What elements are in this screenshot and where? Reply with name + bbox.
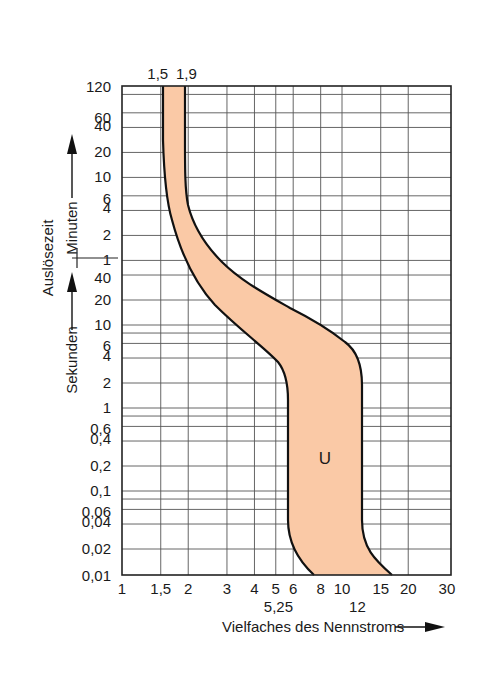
x-tick-label: 3 xyxy=(223,580,231,597)
y-tick-label-seconds: 1 xyxy=(103,399,111,416)
x-tick-label: 4 xyxy=(250,580,258,597)
y-axis-unit-minutes: Minuten xyxy=(63,201,80,254)
y-tick-label-minutes: 40 xyxy=(94,117,111,134)
y-tick-label-seconds: 10 xyxy=(94,316,111,333)
x-axis-ticks: 11,5234568101520305,2512 xyxy=(118,580,455,615)
top-limit-label: 1,9 xyxy=(176,65,197,82)
y-tick-label-seconds: 0,4 xyxy=(90,430,111,447)
top-limit-label: 1,5 xyxy=(147,65,168,82)
x-axis-label: Vielfaches des Nennstroms xyxy=(222,618,404,635)
y-tick-label-minutes: 1 xyxy=(103,251,111,268)
x-tick-label: 20 xyxy=(400,580,417,597)
y-tick-label-seconds: 40 xyxy=(94,269,111,286)
y-tick-label-seconds: 2 xyxy=(103,374,111,391)
y-tick-label-seconds: 0,04 xyxy=(82,513,111,530)
tripping-characteristic-chart: 12060402010642140201064210,60,40,20,10,0… xyxy=(0,0,488,689)
y-tick-label-seconds: 0,1 xyxy=(90,482,111,499)
x-tick-label: 6 xyxy=(289,580,297,597)
top-labels: 1,51,9 xyxy=(147,65,196,82)
x-tick-label: 5 xyxy=(272,580,280,597)
x-tick-label: 8 xyxy=(317,580,325,597)
x-tick-label: 1,5 xyxy=(150,580,171,597)
x-tick-label: 1 xyxy=(118,580,126,597)
y-tick-label-seconds: 20 xyxy=(94,291,111,308)
x-tick-label: 15 xyxy=(372,580,389,597)
y-tick-label-seconds: 4 xyxy=(103,347,111,364)
band-fill xyxy=(163,86,392,575)
x-tick-label: 30 xyxy=(439,580,456,597)
y-axis-label: Auslösezeit xyxy=(39,219,56,297)
chart-canvas: 12060402010642140201064210,60,40,20,10,0… xyxy=(0,0,488,689)
arrow-up-icon xyxy=(67,134,77,198)
y-tick-label-minutes: 20 xyxy=(94,143,111,160)
y-tick-label-minutes: 120 xyxy=(86,78,111,95)
y-tick-label-seconds: 0,2 xyxy=(90,457,111,474)
y-tick-label-minutes: 10 xyxy=(94,168,111,185)
band-label-U: U xyxy=(319,449,331,468)
x-secondary-label: 5,25 xyxy=(264,598,293,615)
y-tick-label-minutes: 2 xyxy=(103,226,111,243)
x-axis-title: Vielfaches des Nennstroms xyxy=(222,618,445,635)
y-axis-unit-seconds: Sekunden xyxy=(63,326,80,394)
y-tick-label-minutes: 4 xyxy=(103,199,111,216)
y-tick-label-seconds: 0,01 xyxy=(82,567,111,584)
arrow-up-icon xyxy=(67,272,77,330)
x-secondary-label: 12 xyxy=(349,598,366,615)
x-tick-label: 2 xyxy=(184,580,192,597)
y-tick-label-seconds: 0,02 xyxy=(82,540,111,557)
x-tick-label: 10 xyxy=(334,580,351,597)
y-axis-ticks: 12060402010642140201064210,60,40,20,10,0… xyxy=(82,78,111,584)
trip-band-U xyxy=(163,86,392,575)
